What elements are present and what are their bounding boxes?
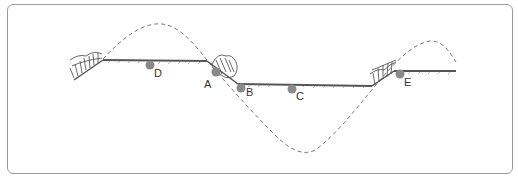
point-c-label: C [296, 90, 304, 102]
point-a-marker [212, 68, 221, 77]
point-d-label: D [154, 67, 162, 79]
point-markers [146, 61, 405, 94]
point-a-label: A [204, 78, 212, 90]
terrain-diagram: D A B C E [0, 0, 518, 181]
point-b-label: B [246, 86, 253, 98]
vegetation-left-icon [70, 52, 102, 78]
dashed-wave-curve [103, 24, 456, 153]
point-b-marker [237, 84, 246, 93]
point-e-label: E [404, 76, 411, 88]
